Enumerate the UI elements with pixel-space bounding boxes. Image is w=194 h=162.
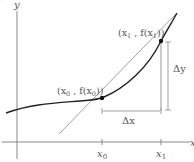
- secant-diagram: y x x0 x1 Δx Δy (x0 , f(x0)) (x1 , f(x1)…: [0, 0, 194, 162]
- x-axis-label: x: [190, 137, 194, 148]
- point-p0: [100, 96, 104, 100]
- tick-label-x1: x1: [156, 148, 166, 161]
- y-axis-label: y: [13, 0, 20, 10]
- point-label-p1: (x1 , f(x1)): [118, 27, 164, 40]
- tick-label-x0: x0: [97, 148, 107, 161]
- delta-x-label: Δx: [122, 115, 135, 126]
- point-p1: [159, 39, 163, 43]
- delta-y-label: Δy: [173, 63, 186, 74]
- diagram-canvas: y x x0 x1 Δx Δy (x0 , f(x0)) (x1 , f(x1)…: [0, 0, 194, 162]
